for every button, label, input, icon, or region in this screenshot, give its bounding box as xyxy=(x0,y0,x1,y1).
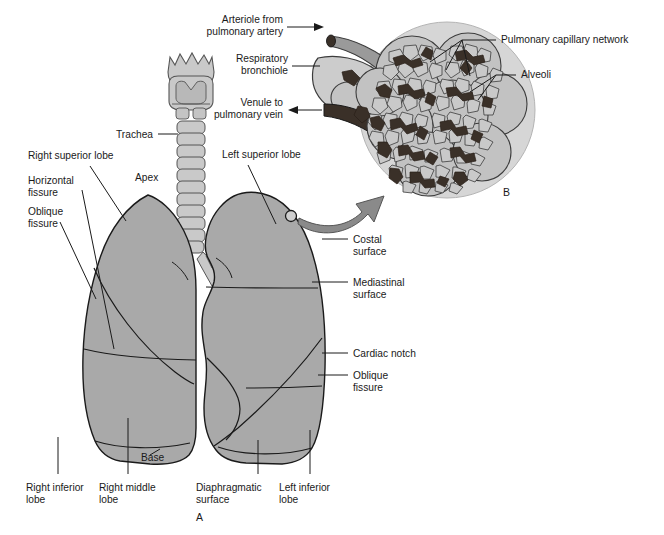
arteriole-lumen xyxy=(327,35,336,47)
alveoli-label: Alveoli xyxy=(521,69,551,80)
panel-b-letter: B xyxy=(503,186,510,198)
magnification-origin-circle xyxy=(286,211,297,222)
left-inferior-lobe-label-line2: lobe xyxy=(279,494,299,505)
oblique-fissure-right-label-line1: Oblique xyxy=(353,370,388,381)
base-label: Base xyxy=(141,452,165,463)
mediastinal-surface-label-line2: surface xyxy=(353,289,387,300)
panel-a-letter: A xyxy=(196,511,203,523)
venule-label-line1: Venule to xyxy=(241,97,284,108)
horizontal-fissure-label-line1: Horizontal xyxy=(28,175,74,186)
left-inferior-lobe-label-line1: Left inferior xyxy=(279,482,331,493)
respiratory-bronchiole-label-line2: bronchiole xyxy=(241,65,288,76)
oblique-fissure-left-label-line1: Oblique xyxy=(28,206,63,217)
costal-surface-label-line1: Costal xyxy=(353,234,382,245)
arytenoid-right xyxy=(193,108,206,119)
diaphragmatic-surface-label-line2: surface xyxy=(196,494,230,505)
arytenoid-left xyxy=(176,108,189,119)
oblique-fissure-right-label-line2: fissure xyxy=(353,382,383,393)
cardiac-notch-label: Cardiac notch xyxy=(353,348,416,359)
right-superior-lobe-label: Right superior lobe xyxy=(28,150,114,161)
diaphragmatic-surface-label-line1: Diaphragmatic xyxy=(196,482,262,493)
mediastinal-surface-label-line1: Mediastinal xyxy=(353,277,405,288)
oblique-fissure-left-label-line2: fissure xyxy=(28,218,58,229)
left-superior-lobe-label: Left superior lobe xyxy=(222,149,301,160)
arteriole-label-line1: Arteriole from xyxy=(222,14,283,25)
respiratory-bronchiole-label-line1: Respiratory xyxy=(236,53,289,64)
apex-label: Apex xyxy=(135,172,158,183)
pulmonary-capillary-network-label: Pulmonary capillary network xyxy=(501,34,629,45)
horizontal-fissure-label-line2: fissure xyxy=(28,187,58,198)
arteriole-label-line2: pulmonary artery xyxy=(207,26,284,37)
right-middle-lobe-label-line2: lobe xyxy=(99,494,119,505)
right-inferior-lobe-label-line1: Right inferior xyxy=(26,482,84,493)
venule-label-line2: pulmonary vein xyxy=(214,109,283,120)
costal-surface-label-line2: surface xyxy=(353,246,387,257)
right-middle-lobe-label-line1: Right middle xyxy=(99,482,156,493)
trachea-label: Trachea xyxy=(116,129,153,140)
lungs-anatomy-figure: Arteriole from pulmonary artery Respirat… xyxy=(0,0,664,535)
right-inferior-lobe-label-line2: lobe xyxy=(26,494,46,505)
